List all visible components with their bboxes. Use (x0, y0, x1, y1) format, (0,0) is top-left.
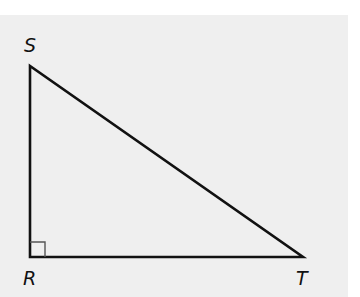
vertex-label-t: T (296, 269, 308, 288)
vertex-label-r: R (23, 269, 36, 288)
vertex-label-s: S (24, 36, 36, 55)
right-triangle-srt (0, 0, 360, 297)
triangle-shape (30, 66, 303, 257)
right-angle-marker (30, 242, 45, 257)
